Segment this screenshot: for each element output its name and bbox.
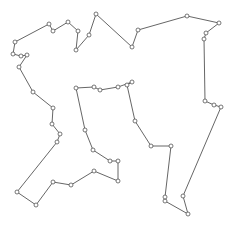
tour-point-marker bbox=[58, 132, 62, 136]
tour-point-marker bbox=[130, 80, 134, 84]
tour-point-marker bbox=[92, 85, 96, 89]
tour-point-marker bbox=[217, 21, 221, 25]
tour-point-marker bbox=[13, 40, 17, 44]
tour-point-marker bbox=[186, 212, 190, 216]
tour-point-marker bbox=[116, 85, 120, 89]
tour-point-marker bbox=[203, 99, 207, 103]
tour-point-marker bbox=[133, 119, 137, 123]
tour-point-marker bbox=[51, 180, 55, 184]
tour-point-marker bbox=[47, 22, 51, 26]
tour-point-marker bbox=[92, 169, 96, 173]
tour-point-marker bbox=[116, 179, 120, 183]
tour-point-marker bbox=[94, 12, 98, 16]
tour-point-marker bbox=[202, 37, 206, 41]
tour-point-marker bbox=[116, 159, 120, 163]
tour-point-marker bbox=[125, 83, 129, 87]
tour-point-marker bbox=[219, 105, 223, 109]
tour-point-marker bbox=[130, 45, 134, 49]
tour-point-marker bbox=[69, 183, 73, 187]
tour-point-marker bbox=[204, 31, 208, 35]
tour-path-line bbox=[13, 14, 221, 214]
tour-point-marker bbox=[50, 122, 54, 126]
tour-point-marker bbox=[19, 54, 23, 58]
tour-point-marker bbox=[87, 33, 91, 37]
tour-point-marker bbox=[74, 86, 78, 90]
tour-point-marker bbox=[163, 199, 167, 203]
tour-point-marker bbox=[108, 159, 112, 163]
tour-point-marker bbox=[31, 90, 35, 94]
tour-point-marker bbox=[98, 88, 102, 92]
tour-point-marker bbox=[212, 103, 216, 107]
tour-plot bbox=[0, 0, 236, 233]
tour-point-marker bbox=[136, 28, 140, 32]
tour-point-marker bbox=[163, 195, 167, 199]
tour-point-marker bbox=[51, 106, 55, 110]
tour-point-marker bbox=[11, 52, 15, 56]
tour-point-marker bbox=[149, 144, 153, 148]
tour-point-marker bbox=[66, 20, 70, 24]
tour-point-marker bbox=[51, 29, 55, 33]
tour-point-marker bbox=[169, 144, 173, 148]
tour-point-marker bbox=[74, 48, 78, 52]
tour-point-marker bbox=[17, 65, 21, 69]
tour-point-markers bbox=[11, 12, 223, 216]
tour-point-marker bbox=[181, 194, 185, 198]
tour-point-marker bbox=[34, 203, 38, 207]
tour-point-marker bbox=[15, 190, 19, 194]
tour-point-marker bbox=[55, 140, 59, 144]
tour-point-marker bbox=[91, 148, 95, 152]
tour-point-marker bbox=[83, 128, 87, 132]
tour-point-marker bbox=[25, 53, 29, 57]
tour-point-marker bbox=[185, 14, 189, 18]
tour-point-marker bbox=[76, 29, 80, 33]
